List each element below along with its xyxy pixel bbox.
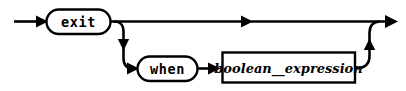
railroad-diagram-canvas: exit when: [0, 0, 406, 91]
merge-up-curve-top: [370, 22, 381, 45]
exit-terminal-label: exit: [61, 14, 96, 30]
main-bypass-track: [111, 15, 399, 28]
boolean-expression-label: boolean__expression: [214, 61, 362, 77]
branch-down-curve-top: [114, 22, 124, 42]
when-branch-track: [114, 22, 140, 75]
node-exit[interactable]: exit: [47, 10, 111, 35]
node-boolean-expression[interactable]: boolean__expression: [214, 53, 362, 83]
railroad-diagram: exit when: [0, 0, 406, 91]
when-terminal-label: when: [150, 61, 185, 77]
exit-arrowhead-icon: [385, 15, 398, 28]
node-when[interactable]: when: [138, 57, 198, 82]
entry-track: [14, 16, 48, 28]
